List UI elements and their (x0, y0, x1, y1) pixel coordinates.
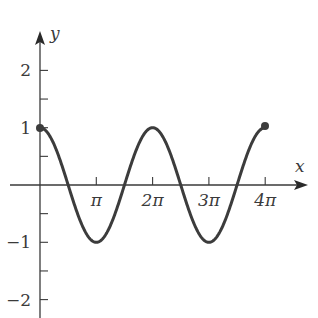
end-point-dot (261, 122, 269, 130)
x-tick-label: 2π (141, 190, 165, 210)
y-tick-label: 2 (20, 60, 31, 80)
x-tick-label: 3π (198, 190, 221, 210)
x-tick-label: π (90, 190, 103, 210)
y-tick-label: 1 (20, 118, 31, 138)
y-axis-label: y (49, 23, 60, 43)
start-point-dot (36, 124, 44, 132)
x-tick-label: 4π (253, 190, 277, 210)
y-tick-label: −2 (6, 290, 31, 310)
axes (10, 31, 308, 318)
y-tick-label: −1 (6, 232, 31, 252)
x-axis-label: x (295, 156, 305, 176)
cosine-plot: π2π3π4π21−1−2 x y (0, 0, 318, 318)
